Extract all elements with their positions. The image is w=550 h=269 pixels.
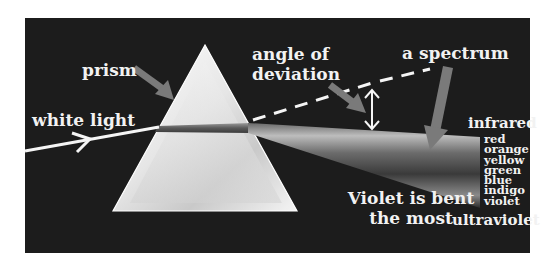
spectrum-color-list: red orange yellow green blue indigo viol… bbox=[484, 134, 529, 206]
angle-double-arrow-icon bbox=[365, 90, 379, 129]
white-light-ray bbox=[25, 127, 159, 152]
angle-of-deviation-label-line1: angle of bbox=[252, 46, 329, 63]
prism-label: prism bbox=[82, 62, 137, 79]
spectrum-label: a spectrum bbox=[402, 45, 509, 62]
prism-dispersion-diagram: prism white light angle of deviation a s… bbox=[0, 0, 550, 269]
spectrum-color-violet: violet bbox=[484, 196, 529, 206]
undeviated-path-dashed-line-ext bbox=[380, 69, 430, 81]
angle-of-deviation-label-line2: deviation bbox=[252, 66, 340, 83]
infrared-label: infrared bbox=[468, 116, 537, 131]
violet-bent-label-line1: Violet is bent bbox=[336, 190, 486, 207]
white-light-label: white light bbox=[32, 112, 135, 129]
ultraviolet-label: ultraviolet bbox=[452, 213, 540, 228]
prism-pointer-arrow-icon bbox=[134, 68, 174, 100]
